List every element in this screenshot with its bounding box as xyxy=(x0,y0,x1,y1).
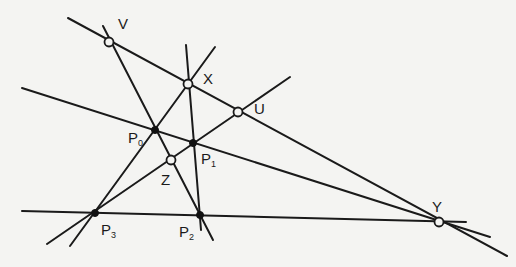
line-VP0ZP2 xyxy=(103,26,213,240)
label-Y: Y xyxy=(432,199,442,214)
label-X: X xyxy=(203,71,213,86)
diagram-svg xyxy=(0,0,516,267)
point-Z xyxy=(167,156,176,165)
label-P3: P3 xyxy=(101,222,116,240)
point-P1 xyxy=(190,140,197,147)
point-P2 xyxy=(197,212,204,219)
label-Z: Z xyxy=(161,172,170,187)
point-U xyxy=(234,108,243,117)
label-U: U xyxy=(254,101,265,116)
label-P1: P1 xyxy=(201,151,216,169)
diagram-canvas: V X U Z Y P0 P1 P2 P3 xyxy=(0,0,516,267)
point-V xyxy=(105,38,114,47)
point-P3 xyxy=(92,210,99,217)
points-group xyxy=(92,38,444,227)
label-V: V xyxy=(118,16,128,31)
point-X xyxy=(184,80,193,89)
point-Y xyxy=(435,218,444,227)
label-P0: P0 xyxy=(128,130,143,148)
point-P0 xyxy=(152,127,159,134)
label-P2: P2 xyxy=(179,224,194,242)
